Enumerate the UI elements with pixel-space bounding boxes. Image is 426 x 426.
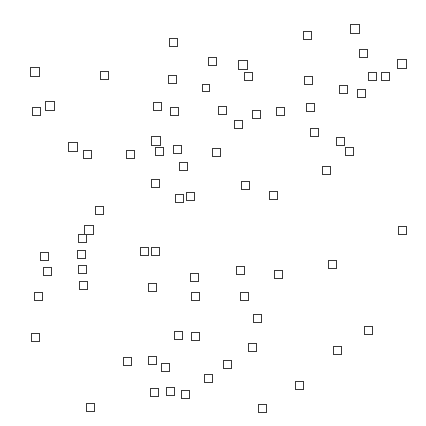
square-marker (34, 292, 43, 301)
square-marker (95, 206, 104, 215)
square-marker (100, 71, 109, 80)
square-marker (258, 404, 267, 413)
square-marker (269, 191, 278, 200)
square-marker (398, 226, 407, 235)
square-marker (274, 270, 283, 279)
square-marker (339, 85, 348, 94)
square-marker (148, 283, 157, 292)
square-marker (78, 234, 87, 243)
square-marker (328, 260, 337, 269)
square-marker (345, 147, 354, 156)
square-marker (181, 390, 190, 399)
square-marker (45, 101, 55, 111)
square-marker (252, 110, 261, 119)
square-marker (86, 403, 95, 412)
square-marker (43, 267, 52, 276)
square-marker (234, 120, 243, 129)
square-marker (30, 67, 40, 77)
square-marker (368, 72, 377, 81)
square-marker (381, 72, 390, 81)
square-marker (153, 102, 162, 111)
square-marker (166, 387, 175, 396)
square-marker (204, 374, 213, 383)
square-marker (248, 343, 257, 352)
square-marker (140, 247, 149, 256)
square-marker (336, 137, 345, 146)
square-marker (151, 247, 160, 256)
square-marker (77, 250, 86, 259)
square-marker (173, 145, 182, 154)
square-marker (148, 356, 157, 365)
square-marker (397, 59, 407, 69)
square-marker (244, 72, 253, 81)
square-marker (31, 333, 40, 342)
square-marker (191, 292, 200, 301)
square-marker (304, 76, 313, 85)
square-marker (295, 381, 304, 390)
square-marker (303, 31, 312, 40)
square-marker (150, 388, 159, 397)
square-marker (123, 357, 132, 366)
square-marker (333, 346, 342, 355)
scatter-plot-canvas (0, 0, 426, 426)
square-marker (175, 194, 184, 203)
square-marker (170, 107, 179, 116)
square-marker (186, 192, 195, 201)
square-marker (223, 360, 232, 369)
square-marker (155, 147, 164, 156)
square-marker (174, 331, 183, 340)
square-marker (161, 363, 170, 372)
square-marker (40, 252, 49, 261)
square-marker (202, 84, 210, 92)
square-marker (126, 150, 135, 159)
square-marker (359, 49, 368, 58)
square-marker (32, 107, 41, 116)
square-marker (364, 326, 373, 335)
square-marker (168, 75, 177, 84)
square-marker (151, 179, 160, 188)
square-marker (236, 266, 245, 275)
square-marker (151, 136, 161, 146)
square-marker (357, 89, 366, 98)
square-marker (306, 103, 315, 112)
square-marker (169, 38, 178, 47)
square-marker (241, 181, 250, 190)
square-marker (191, 332, 200, 341)
square-marker (212, 148, 221, 157)
square-marker (253, 314, 262, 323)
square-marker (276, 107, 285, 116)
square-marker (238, 60, 248, 70)
square-marker (83, 150, 92, 159)
square-marker (310, 128, 319, 137)
square-marker (68, 142, 78, 152)
square-marker (322, 166, 331, 175)
square-marker (79, 281, 88, 290)
square-marker (240, 292, 249, 301)
square-marker (350, 24, 360, 34)
square-marker (218, 106, 227, 115)
square-marker (208, 57, 217, 66)
square-marker (179, 162, 188, 171)
square-marker (190, 273, 199, 282)
square-marker (78, 265, 87, 274)
